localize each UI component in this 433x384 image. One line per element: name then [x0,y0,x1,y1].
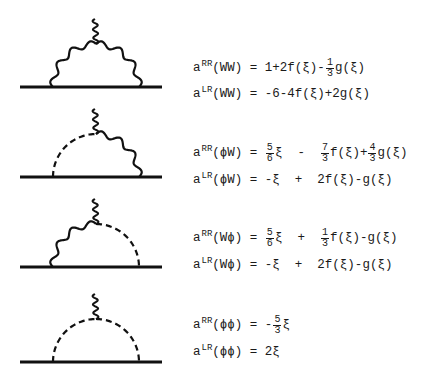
equals-sign: = [242,61,265,75]
equation-lhs: aLR(ϕW) = [193,173,265,188]
diagram-argument: (WW) [212,61,242,75]
fraction: 13 [326,58,334,79]
denominator: 6 [266,154,274,164]
numerator: 5 [266,143,274,154]
equals-sign: = [242,258,265,272]
equation-lhs: aRR(ϕW) = [193,146,265,161]
diagram-argument: (ϕW) [212,146,242,160]
rhs-term: 1+2f(ξ)- [265,61,325,75]
numerator: 7 [321,143,329,154]
coefficient-symbol: a [193,258,201,272]
coefficient-symbol: a [193,61,201,75]
equals-sign: = [242,231,265,245]
rhs-term: g(ξ) [377,146,407,160]
coefficient-symbol: a [193,173,201,187]
feynman-diagram-phiphi [0,280,200,376]
denominator: 6 [266,239,274,249]
fraction: 53 [273,315,281,336]
fraction: 13 [321,228,329,249]
equation-lhs: aLR(Wϕ) = [193,258,265,273]
equals-sign: = [242,87,265,101]
denominator: 3 [273,326,281,336]
equals-sign: = [242,173,265,187]
rhs-term: ξ - [275,146,320,160]
fraction: 56 [266,228,274,249]
equation-rr-6: aRR(ϕϕ) = -53ξ [193,315,290,335]
feynman-diagram-phiW [0,95,200,191]
equation-rhs: -ξ + 2f(ξ)-g(ξ) [265,173,393,187]
coefficient-symbol: a [193,345,201,359]
chirality-superscript: LR [202,171,213,181]
diagram-argument: (Wϕ) [212,258,242,272]
equation-rhs: 56ξ - 73f(ξ)+43g(ξ) [265,143,408,164]
fraction: 43 [368,143,376,164]
rhs-term: -ξ + 2f(ξ)-g(ξ) [265,173,393,187]
equation-lr-7: aLR(ϕϕ) = 2ξ [193,342,280,362]
rhs-term: -ξ + 2f(ξ)-g(ξ) [265,258,393,272]
chirality-superscript: RR [202,144,213,154]
chirality-superscript: LR [202,256,213,266]
chirality-superscript: RR [202,316,213,326]
equation-rhs: 56ξ + 13f(ξ)-g(ξ) [265,228,398,249]
denominator: 3 [321,239,329,249]
equation-rr-0: aRR(WW) = 1+2f(ξ)-13g(ξ) [193,58,365,78]
numerator: 1 [326,58,334,69]
equals-sign: = [242,318,265,332]
equation-lr-1: aLR(WW) = -6-4f(ξ)+2g(ξ) [193,84,370,104]
equals-sign: = [242,345,265,359]
coefficient-symbol: a [193,87,201,101]
denominator: 3 [321,154,329,164]
rhs-term: -6-4f(ξ)+2g(ξ) [265,87,370,101]
coefficient-symbol: a [193,146,201,160]
equation-rhs: -6-4f(ξ)+2g(ξ) [265,87,370,101]
equation-lhs: aRR(Wϕ) = [193,231,265,246]
denominator: 3 [368,154,376,164]
chirality-superscript: RR [202,59,213,69]
denominator: 3 [326,69,334,79]
coefficient-symbol: a [193,318,201,332]
rhs-term: f(ξ)+ [330,146,368,160]
feynman-diagram-WW [0,5,200,101]
diagram-argument: (ϕϕ) [212,318,242,332]
chirality-superscript: LR [202,85,213,95]
equation-lhs: aRR(ϕϕ) = [193,318,265,333]
fraction: 73 [321,143,329,164]
rhs-term: 2ξ [265,345,280,359]
equation-rr-2: aRR(ϕW) = 56ξ - 73f(ξ)+43g(ξ) [193,143,407,163]
equals-sign: = [242,146,265,160]
fraction: 56 [266,143,274,164]
equation-rhs: 1+2f(ξ)-13g(ξ) [265,58,365,79]
chirality-superscript: LR [202,343,213,353]
rhs-term: ξ [282,318,290,332]
equation-rhs: -53ξ [265,315,290,336]
rhs-term: ξ + [275,231,320,245]
diagram-argument: (ϕϕ) [212,345,242,359]
coefficient-symbol: a [193,231,201,245]
diagram-argument: (ϕW) [212,173,242,187]
diagram-argument: (WW) [212,87,242,101]
equation-lhs: aLR(ϕϕ) = [193,345,265,360]
equation-rhs: -ξ + 2f(ξ)-g(ξ) [265,258,393,272]
numerator: 5 [266,228,274,239]
equation-lhs: aRR(WW) = [193,61,265,76]
diagram-argument: (Wϕ) [212,231,242,245]
equation-lr-5: aLR(Wϕ) = -ξ + 2f(ξ)-g(ξ) [193,255,392,275]
equation-rhs: 2ξ [265,345,280,359]
feynman-diagram-Wphi [0,185,200,281]
chirality-superscript: RR [202,229,213,239]
equation-rr-4: aRR(Wϕ) = 56ξ + 13f(ξ)-g(ξ) [193,228,397,248]
equation-lhs: aLR(WW) = [193,87,265,102]
numerator: 5 [273,315,281,326]
rhs-term: g(ξ) [335,61,365,75]
numerator: 1 [321,228,329,239]
equation-lr-3: aLR(ϕW) = -ξ + 2f(ξ)-g(ξ) [193,170,392,190]
rhs-term: - [265,318,273,332]
rhs-term: f(ξ)-g(ξ) [330,231,398,245]
numerator: 4 [368,143,376,154]
